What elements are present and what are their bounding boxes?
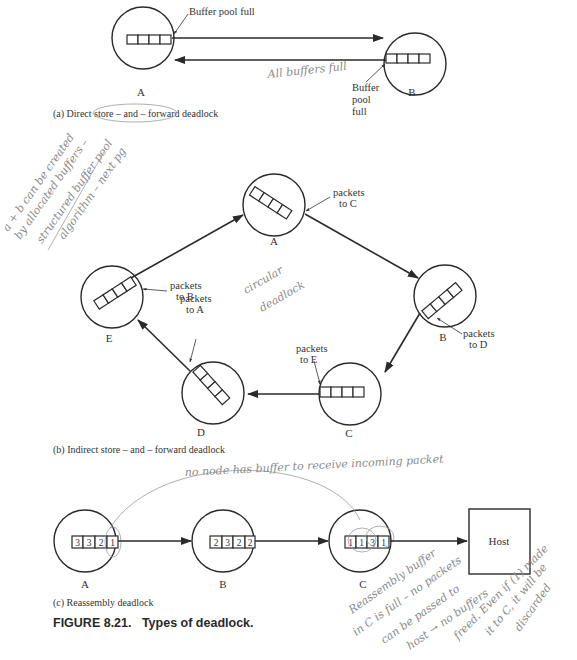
- annotation-packets: packets: [333, 187, 365, 198]
- node-a: A packets to C: [243, 174, 365, 247]
- node-e: E packets to B: [81, 266, 202, 344]
- link-d-to-e: [138, 320, 190, 371]
- figure-title: FIGURE 8.21. Types of deadlock.: [53, 616, 254, 630]
- annotation-destination: to E: [300, 354, 317, 365]
- buffer-queue: [320, 387, 364, 397]
- link-a-to-b: [305, 214, 418, 278]
- buffer-queue: [249, 187, 291, 219]
- pointer-line: [366, 64, 385, 82]
- caption-panel-b: (b) Indirect store – and – forward deadl…: [53, 444, 225, 456]
- deadlock-figure: A B Buffer pool full Buffer pool full Al…: [0, 0, 577, 660]
- packet-id: 1: [110, 538, 115, 548]
- pointer-line: [190, 339, 196, 362]
- node-a: 3 3 2 1 A: [54, 510, 121, 590]
- annotation-buffer-label: Buffer: [352, 82, 380, 93]
- pointer-line: [306, 197, 330, 211]
- node-label: A: [270, 235, 278, 247]
- buffer-queue: [422, 283, 462, 319]
- handwritten-margin-note: a + b can be created by allocated buffer…: [0, 131, 129, 250]
- buffer-queue: [386, 54, 430, 63]
- node-label: D: [197, 426, 205, 438]
- host-label: Host: [489, 535, 510, 547]
- node-a: A: [112, 7, 174, 98]
- node-label: B: [439, 331, 446, 343]
- annotation-buffer-pool-full-a: Buffer pool full: [189, 6, 255, 17]
- node-label: E: [106, 332, 113, 344]
- packet-id: 1: [381, 538, 386, 548]
- annotation-pool-label: pool: [352, 94, 371, 105]
- node-b: B: [384, 33, 446, 98]
- node-label: B: [408, 86, 415, 98]
- node-label: A: [81, 578, 89, 590]
- annotation-destination: to A: [186, 304, 204, 315]
- node-label: C: [345, 427, 352, 439]
- buffer-queue: 1 1 3 1: [345, 536, 389, 548]
- link-b-to-c: [385, 313, 420, 372]
- node-b: 2 3 2 2 B: [192, 510, 255, 590]
- panel-a-direct-deadlock: A B Buffer pool full Buffer pool full Al…: [53, 6, 446, 122]
- packet-id: 2: [214, 538, 219, 548]
- node-c: C packets to E: [296, 343, 381, 439]
- buffer-queue: [127, 35, 171, 44]
- annotation-destination: to C: [339, 198, 357, 209]
- caption-panel-c: (c) Reassembly deadlock: [53, 597, 154, 609]
- annotation-packets: packets: [296, 343, 328, 354]
- annotation-packets: packets: [170, 280, 202, 291]
- packet-id: 2: [99, 538, 104, 548]
- annotation-destination: to B: [176, 291, 194, 302]
- panel-b-indirect-deadlock: A packets to C B packets to D: [0, 131, 495, 456]
- buffer-queue: [193, 365, 230, 404]
- annotation-destination: to D: [469, 339, 488, 350]
- packet-id: 2: [237, 538, 242, 548]
- node-d: D packets to A: [180, 293, 244, 438]
- handwritten-note-all-buffers-full: All buffers full: [266, 60, 348, 81]
- node-label: B: [219, 578, 226, 590]
- link-e-to-a: [131, 215, 243, 278]
- pencil-arc: [110, 470, 360, 528]
- annotation-full-label: full: [352, 106, 367, 117]
- node-b: B packets to D: [414, 265, 495, 350]
- packet-id: 2: [248, 538, 253, 548]
- node-label: A: [137, 86, 145, 98]
- buffer-queue: 2 3 2 2: [210, 536, 255, 548]
- annotation-packets: packets: [463, 328, 495, 339]
- handwritten-note-no-buffer: no node has buffer to receive incoming p…: [184, 452, 444, 479]
- pointer-line: [143, 289, 167, 291]
- buffer-queue: 3 3 2 1: [72, 536, 118, 548]
- node-c: 1 1 3 1 C: [329, 510, 394, 590]
- packet-id: 3: [75, 538, 80, 548]
- caption-panel-a: (a) Direct store – and – forward deadloc…: [53, 108, 218, 120]
- packet-id: 1: [359, 538, 364, 548]
- buffer-queue: [94, 277, 136, 309]
- pointer-line: [174, 14, 188, 34]
- node-label: C: [359, 578, 366, 590]
- packet-id: 3: [225, 538, 230, 548]
- packet-id: 3: [87, 538, 92, 548]
